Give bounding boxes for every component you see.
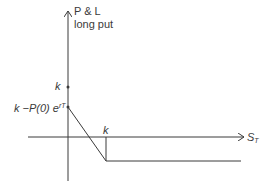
y-mark-k-label: k [55,80,61,92]
x-mark-k-label: k [103,124,109,136]
diagram-canvas [0,0,275,188]
y-axis-label-line2: long put [74,18,113,30]
payoff-descending-segment [68,107,106,161]
y-mark-intercept-sup: rT [59,102,66,109]
x-axis-label: ST [247,131,259,147]
y-axis-label-line1: P & L [74,5,101,17]
y-mark-k-dot [67,86,70,89]
x-axis-label-sub: T [254,137,258,144]
y-mark-intercept-main: k −P(0) e [14,102,59,114]
y-mark-intercept-label: k −P(0) erT [14,100,66,114]
